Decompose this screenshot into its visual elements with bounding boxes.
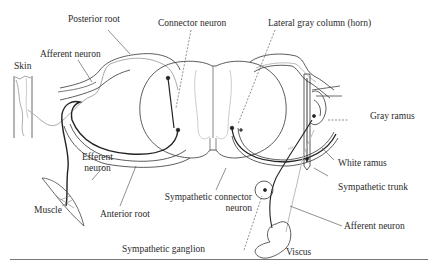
sympathetic-trunk <box>304 74 310 170</box>
label-lateral-gray-column: Lateral gray column (horn) <box>268 18 371 29</box>
efferent-neuron-fiber <box>62 102 178 207</box>
bottom-rule <box>10 259 428 260</box>
label-gray-ramus: Gray ramus <box>370 111 415 122</box>
label-white-ramus: White ramus <box>338 158 387 169</box>
afferent-neuron-fiber <box>28 58 178 125</box>
label-efferent-line2: neuron <box>82 163 113 174</box>
muscle-illustration <box>42 178 84 226</box>
posterior-root-right <box>250 54 334 98</box>
label-efferent-line1: Efferent <box>82 152 113 163</box>
label-afferent-neuron-top: Afferent neuron <box>40 49 101 60</box>
label-sympathetic-connector-neuron: Sympathetic connector neuron <box>132 192 252 214</box>
label-connector-neuron: Connector neuron <box>158 18 226 29</box>
label-sympathetic-trunk: Sympathetic trunk <box>338 182 408 193</box>
label-viscus: Viscus <box>286 247 311 258</box>
label-muscle: Muscle <box>34 205 62 216</box>
label-sympathetic-connector-line1: Sympathetic connector <box>132 192 252 203</box>
label-skin: Skin <box>14 61 31 72</box>
label-efferent-neuron: Efferent neuron <box>82 152 113 174</box>
label-sympathetic-ganglion: Sympathetic ganglion <box>122 244 205 255</box>
label-posterior-root: Posterior root <box>68 14 120 25</box>
skin-illustration <box>14 76 32 138</box>
label-anterior-root: Anterior root <box>100 209 150 220</box>
label-afferent-neuron-bottom: Afferent neuron <box>344 221 405 232</box>
label-sympathetic-connector-line2: neuron <box>132 203 252 214</box>
